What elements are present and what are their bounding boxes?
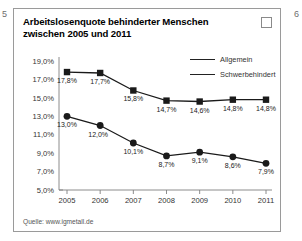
- x-axis-tick-label: 2010: [224, 196, 241, 205]
- x-axis-tick-label: 2009: [191, 196, 208, 205]
- y-axis-tick-label: 5,0%: [37, 186, 55, 195]
- x-axis-tick-label: 2006: [92, 196, 109, 205]
- data-point-marker: [163, 153, 170, 160]
- x-axis-tick-label: 2008: [158, 196, 175, 205]
- data-point-marker: [64, 113, 71, 120]
- data-point-label: 12,0%: [88, 131, 108, 138]
- data-point-label: 10,1%: [123, 148, 143, 155]
- data-point-label: 14,8%: [256, 105, 276, 112]
- data-point-marker: [230, 97, 236, 103]
- data-point-marker: [97, 122, 104, 129]
- data-point-marker: [196, 98, 202, 104]
- y-axis-tick-label: 7,0%: [37, 167, 55, 176]
- y-axis-tick-label: 15,0%: [32, 94, 54, 103]
- data-point-label: 14,7%: [157, 106, 177, 113]
- data-point-marker: [196, 149, 203, 156]
- data-point-label: 17,8%: [57, 77, 77, 84]
- data-point-marker: [263, 160, 270, 167]
- data-point-label: 17,7%: [90, 78, 110, 85]
- data-point-label: 14,8%: [223, 105, 243, 112]
- data-point-marker: [64, 69, 70, 75]
- data-point-label: 9,1%: [192, 157, 208, 164]
- x-axis-tick-label: 2005: [59, 196, 76, 205]
- page-marker-right: 6: [294, 9, 299, 19]
- data-point-label: 8,7%: [159, 161, 175, 168]
- chart-canvas: 19,0%17,0%15,0%13,0%11,0%9,0%7,0%5,0%200…: [14, 9, 282, 233]
- chart-card: Arbeitslosenquote behinderter Menschen z…: [13, 8, 281, 232]
- source-caption: Quelle: www.igmetall.de: [23, 218, 93, 225]
- data-point-marker: [130, 87, 136, 93]
- x-axis-tick-label: 2007: [125, 196, 142, 205]
- data-point-marker: [163, 97, 169, 103]
- y-axis-tick-label: 13,0%: [32, 112, 54, 121]
- data-point-marker: [263, 97, 269, 103]
- y-axis-tick-label: 9,0%: [37, 149, 55, 158]
- data-point-label: 13,0%: [57, 121, 77, 128]
- data-point-label: 8,6%: [225, 162, 241, 169]
- data-point-marker: [130, 140, 137, 147]
- data-point-label: 15,8%: [123, 95, 143, 102]
- page-marker-left: 5: [2, 9, 7, 19]
- data-point-label: 14,6%: [190, 107, 210, 114]
- chart-plot-area: 19,0%17,0%15,0%13,0%11,0%9,0%7,0%5,0%200…: [14, 9, 282, 233]
- data-point-marker: [97, 70, 103, 76]
- data-point-label: 7,9%: [258, 168, 274, 175]
- data-point-marker: [229, 153, 236, 160]
- x-axis-tick-label: 2011: [258, 196, 274, 205]
- series-line-schwerbehindert: [67, 72, 266, 101]
- y-axis-tick-label: 19,0%: [32, 57, 54, 66]
- y-axis-tick-label: 17,0%: [32, 75, 54, 84]
- y-axis-tick-label: 11,0%: [33, 130, 54, 139]
